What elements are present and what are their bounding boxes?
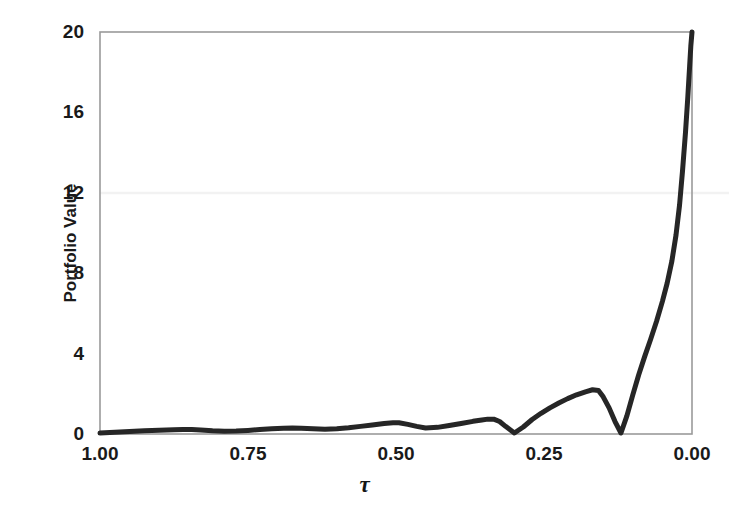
x-axis-title: τ — [0, 472, 729, 498]
y-tick-label: 0 — [22, 423, 84, 445]
x-tick-label: 0.25 — [526, 443, 563, 465]
plot-canvas — [0, 0, 729, 517]
portfolio-value-curve — [100, 32, 692, 433]
plot-frame — [100, 32, 692, 434]
y-tick-label: 20 — [22, 21, 84, 43]
y-tick-label: 16 — [22, 101, 84, 123]
chart-figure: 20 16 12 8 4 0 1.00 0.75 0.50 0.25 0.00 … — [0, 0, 729, 517]
x-tick-label: 0.75 — [230, 443, 267, 465]
x-tick-label: 0.50 — [378, 443, 415, 465]
x-tick-label: 1.00 — [82, 443, 119, 465]
y-axis-title: Portfolio Value — [61, 138, 81, 348]
x-tick-label: 0.00 — [674, 443, 711, 465]
